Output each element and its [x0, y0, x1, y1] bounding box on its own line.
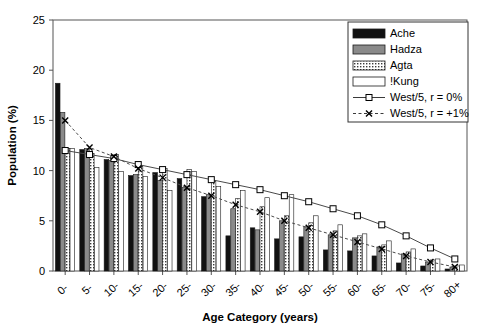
- marker-square: [184, 172, 190, 178]
- legend-label: West/5, r = 0%: [390, 91, 462, 103]
- x-tick-label-15: 75-: [418, 279, 438, 299]
- bar: [104, 160, 109, 271]
- bar: [396, 263, 401, 271]
- x-tick-label-13: 65-: [369, 279, 389, 299]
- bar: [90, 154, 95, 271]
- bar: [289, 195, 294, 271]
- x-tick-label-3: 15-: [126, 279, 146, 299]
- bar: [80, 150, 85, 271]
- y-tick-label-10: 10: [33, 165, 45, 177]
- bar: [255, 230, 260, 271]
- x-tick-label-7: 35-: [223, 279, 243, 299]
- legend-item-agta[interactable]: Agta: [353, 59, 414, 71]
- marker-square: [427, 245, 433, 251]
- bar: [163, 169, 168, 271]
- legend-label: Agta: [390, 59, 414, 71]
- marker-square: [208, 177, 214, 183]
- bar: [328, 235, 333, 271]
- population-age-structure-chart: 0510152025Population (%)0-5-10-15-20-25-…: [0, 0, 484, 331]
- legend-item-ache[interactable]: Ache: [353, 27, 415, 39]
- y-tick-label-15: 15: [33, 114, 45, 126]
- bar: [85, 149, 90, 271]
- y-axis: 0510152025: [33, 14, 53, 277]
- bar: [250, 228, 255, 271]
- bar: [202, 197, 207, 271]
- bar: [177, 179, 182, 271]
- bar: [372, 256, 377, 271]
- bar: [387, 241, 392, 271]
- bar: [299, 237, 304, 271]
- y-tick-label-20: 20: [33, 64, 45, 76]
- x-tick-label-16: 80+: [441, 278, 463, 299]
- legend-swatch: [353, 61, 385, 70]
- marker-square: [257, 187, 263, 193]
- marker-square: [403, 233, 409, 239]
- y-axis-title: Population (%): [6, 105, 18, 186]
- legend-label: Hadza: [390, 43, 423, 55]
- marker-square: [160, 167, 166, 173]
- x-tick-label-6: 30-: [199, 279, 219, 299]
- y-tick-label-25: 25: [33, 14, 45, 26]
- bar: [158, 181, 163, 271]
- y-tick-label-0: 0: [39, 265, 45, 277]
- bar: [241, 191, 246, 271]
- marker-square: [452, 256, 458, 262]
- bar: [314, 216, 319, 271]
- x-tick-label-1: 5-: [79, 281, 95, 297]
- legend: AcheHadzaAgta!KungWest/5, r = 0%West/5, …: [348, 22, 469, 122]
- chart-canvas: 0510152025Population (%)0-5-10-15-20-25-…: [0, 0, 484, 331]
- bar: [167, 191, 172, 271]
- legend-label: West/5, r = +1%: [390, 107, 469, 119]
- bar: [60, 112, 65, 271]
- legend-swatch: [353, 29, 385, 38]
- bar: [143, 177, 148, 271]
- bar: [260, 207, 265, 271]
- bar: [226, 236, 231, 271]
- bar: [231, 209, 236, 271]
- bar: [70, 149, 75, 271]
- bar: [445, 269, 450, 271]
- bar: [323, 250, 328, 271]
- x-tick-label-8: 40-: [247, 279, 267, 299]
- bar: [55, 83, 60, 271]
- x-tick-label-5: 25-: [174, 279, 194, 299]
- x-axis: 0-5-10-15-20-25-30-35-40-45-50-55-60-65-…: [55, 271, 463, 300]
- bar: [338, 225, 343, 271]
- x-tick-label-0: 0-: [55, 281, 71, 297]
- y-tick-label-5: 5: [39, 215, 45, 227]
- x-tick-label-12: 60-: [345, 279, 365, 299]
- bar: [421, 266, 426, 271]
- bar: [411, 249, 416, 271]
- marker-square: [87, 152, 93, 158]
- bar: [109, 161, 114, 271]
- bar: [265, 198, 270, 271]
- legend-swatch: [353, 45, 385, 54]
- bar: [192, 172, 197, 271]
- bar: [114, 155, 119, 271]
- bar: [119, 172, 124, 271]
- marker-square: [233, 182, 239, 188]
- legend-swatch: [353, 77, 385, 86]
- x-tick-label-14: 70-: [394, 279, 414, 299]
- x-tick-label-11: 55-: [320, 279, 340, 299]
- marker-square: [330, 206, 336, 212]
- bar: [236, 199, 241, 271]
- marker-square: [281, 193, 287, 199]
- legend-label: Ache: [390, 27, 415, 39]
- bar: [138, 167, 143, 271]
- bar: [275, 239, 280, 271]
- marker-square: [354, 213, 360, 219]
- bar: [133, 175, 138, 271]
- x-tick-label-4: 20-: [150, 279, 170, 299]
- marker-square: [62, 148, 68, 154]
- bar: [348, 251, 353, 271]
- x-tick-label-2: 10-: [101, 279, 121, 299]
- legend-marker-square: [366, 95, 372, 101]
- bar: [65, 149, 70, 271]
- bar: [435, 259, 440, 271]
- marker-square: [306, 199, 312, 205]
- x-tick-label-9: 45-: [272, 279, 292, 299]
- bar: [153, 173, 158, 271]
- x-tick-label-10: 50-: [296, 279, 316, 299]
- bar: [128, 176, 133, 271]
